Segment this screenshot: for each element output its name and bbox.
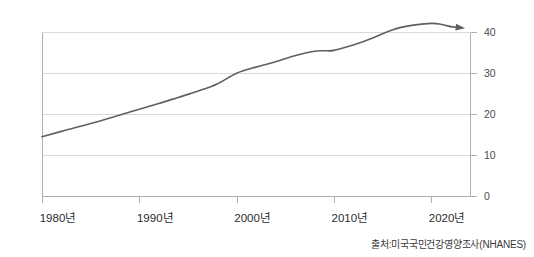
x-tick-label-2020: 2020년 <box>429 212 466 224</box>
source-caption: 출처:미국국민건강영양조사(NHANES) <box>371 236 526 251</box>
x-tick-label-2010: 2010년 <box>332 212 369 224</box>
y-tick-label-0: 0 <box>484 190 490 202</box>
line-chart: 010203040 1980년1990년2000년2010년2020년 <box>0 0 534 257</box>
data-series-obesity-trend <box>42 23 465 136</box>
x-tick-label-2000: 2000년 <box>234 212 271 224</box>
series-path-0 <box>42 23 451 136</box>
y-tick-label-20: 20 <box>484 108 496 120</box>
chart-container: 010203040 1980년1990년2000년2010년2020년 출처:미… <box>0 0 534 257</box>
x-tick-label-1990: 1990년 <box>137 212 174 224</box>
gridlines <box>42 33 470 156</box>
y-tick-label-10: 10 <box>484 149 496 161</box>
x-axis-tick-labels: 1980년1990년2000년2010년2020년 <box>40 212 466 224</box>
trend-arrow-head-icon <box>455 24 465 31</box>
y-axis-tick-labels: 010203040 <box>484 26 496 202</box>
y-tick-label-40: 40 <box>484 26 496 38</box>
x-axis-ticks <box>43 197 432 203</box>
y-tick-label-30: 30 <box>484 67 496 79</box>
x-tick-label-1980: 1980년 <box>40 212 77 224</box>
y-axis-ticks <box>471 33 477 197</box>
